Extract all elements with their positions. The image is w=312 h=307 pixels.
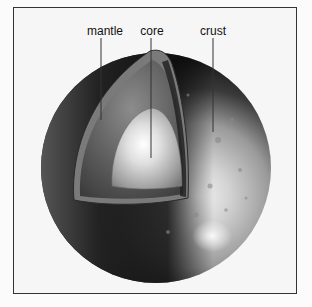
label-crust: crust [200, 25, 226, 37]
label-core: core [140, 25, 163, 37]
earth-cutaway-illustration [0, 0, 312, 307]
label-mantle: mantle [87, 25, 123, 37]
